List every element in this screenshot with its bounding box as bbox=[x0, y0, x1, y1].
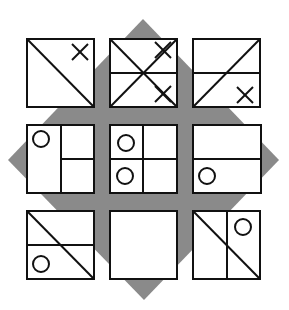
cell-grid bbox=[27, 39, 261, 279]
cell-r3c3 bbox=[193, 211, 260, 279]
cell-r1c2 bbox=[110, 39, 177, 107]
cell-r1c3 bbox=[193, 39, 260, 107]
cell-r3c1 bbox=[27, 211, 94, 279]
cell-frame bbox=[110, 211, 177, 279]
cell-r3c2 bbox=[110, 211, 177, 279]
cell-r1c1 bbox=[27, 39, 94, 107]
puzzle-figure bbox=[0, 0, 289, 310]
cell-r2c2 bbox=[110, 125, 177, 193]
cell-r2c1 bbox=[27, 125, 94, 193]
cell-r2c3 bbox=[193, 125, 261, 193]
